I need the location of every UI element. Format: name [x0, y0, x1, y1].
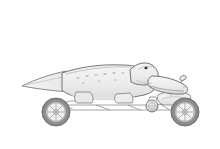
- rear-wheel: [42, 98, 70, 126]
- crocodile-race-car-illustration: Crocodile race car illustration Pencil-s…: [0, 0, 220, 149]
- crocodile-eye: [144, 67, 147, 70]
- image-canvas: Crocodile race car illustration Pencil-s…: [0, 0, 220, 149]
- crocodile-nostril: [183, 86, 185, 88]
- front-wheel: [171, 98, 199, 126]
- crocodile-fore-leg: [115, 93, 133, 103]
- crocodile-hind-leg: [75, 92, 93, 103]
